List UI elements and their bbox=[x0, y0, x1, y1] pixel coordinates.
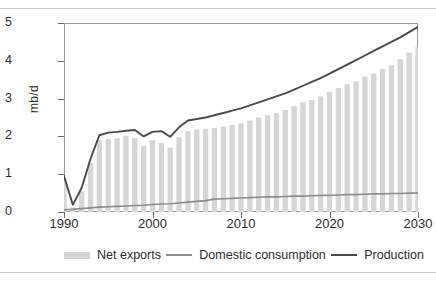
bar bbox=[406, 52, 411, 212]
bar bbox=[362, 77, 367, 212]
bar bbox=[132, 138, 137, 212]
bar bbox=[415, 47, 418, 212]
x-tick-mark bbox=[418, 212, 419, 218]
legend-label-domestic-consumption: Domestic consumption bbox=[199, 248, 325, 262]
bar bbox=[123, 136, 128, 212]
line-swatch-dark-icon bbox=[331, 254, 357, 256]
bar bbox=[380, 69, 385, 212]
bar bbox=[114, 138, 119, 212]
x-tick-mark bbox=[64, 212, 65, 218]
legend-item-production: Production bbox=[331, 248, 424, 262]
line-swatch-icon bbox=[166, 254, 192, 256]
bar bbox=[345, 84, 350, 212]
bottom-rule bbox=[0, 272, 436, 273]
bar bbox=[398, 59, 403, 212]
x-tick-label: 2030 bbox=[390, 216, 436, 231]
bar bbox=[88, 163, 93, 212]
top-rule bbox=[0, 8, 436, 9]
x-tick-mark bbox=[153, 212, 154, 218]
bar bbox=[327, 92, 332, 212]
bar bbox=[336, 88, 341, 212]
x-tick-mark bbox=[330, 212, 331, 218]
y-tick-label: 0 bbox=[0, 204, 12, 218]
y-tick-label: 3 bbox=[0, 91, 12, 105]
bar bbox=[141, 146, 146, 212]
figure-container: mb/d 012345 19902000201020202030 Net exp… bbox=[0, 0, 436, 285]
y-axis-label: mb/d bbox=[27, 59, 41, 139]
bar bbox=[168, 148, 173, 212]
x-tick-label: 2020 bbox=[302, 216, 358, 231]
bar bbox=[185, 131, 190, 212]
bar bbox=[389, 65, 394, 212]
bar bbox=[150, 140, 155, 212]
x-tick-label: 2000 bbox=[125, 216, 181, 231]
chart-legend: Net exports Domestic consumption Product… bbox=[64, 246, 424, 264]
bar bbox=[353, 81, 358, 212]
net-exports-bars bbox=[64, 47, 418, 212]
bar bbox=[176, 137, 181, 212]
y-tick-label: 4 bbox=[0, 53, 12, 67]
y-tick-label: 1 bbox=[0, 166, 12, 180]
bar bbox=[97, 140, 102, 212]
legend-item-domestic-consumption: Domestic consumption bbox=[166, 248, 325, 262]
bar bbox=[159, 143, 164, 212]
title-remnant bbox=[130, 0, 330, 7]
legend-label-net-exports: Net exports bbox=[97, 248, 161, 262]
bar-swatch-icon bbox=[64, 252, 90, 259]
x-tick-label: 1990 bbox=[36, 216, 92, 231]
y-tick-label: 5 bbox=[0, 15, 12, 29]
bar bbox=[371, 74, 376, 212]
legend-label-production: Production bbox=[364, 248, 424, 262]
y-tick-label: 2 bbox=[0, 128, 12, 142]
chart-canvas bbox=[64, 23, 418, 212]
bar bbox=[106, 139, 111, 212]
plot-area bbox=[64, 23, 418, 212]
x-tick-mark bbox=[241, 212, 242, 218]
legend-item-net-exports: Net exports bbox=[64, 248, 161, 262]
x-tick-label: 2010 bbox=[213, 216, 269, 231]
bar bbox=[194, 130, 199, 212]
bar bbox=[203, 129, 208, 212]
